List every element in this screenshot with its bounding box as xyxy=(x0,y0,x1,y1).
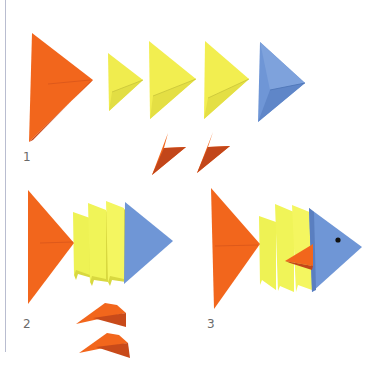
yellow-layer-2 xyxy=(88,203,108,286)
orange-tail xyxy=(28,190,74,304)
yellow-triangle-small xyxy=(108,53,143,111)
small-orange-fin-1 xyxy=(152,133,186,175)
yellow-triangle-3 xyxy=(204,41,249,119)
orange-fin-b xyxy=(79,333,130,358)
step-1-label: 1 xyxy=(23,150,31,164)
origami-illustration xyxy=(0,0,386,374)
step-2-assembly xyxy=(28,190,173,358)
small-orange-fin-2 xyxy=(197,132,230,173)
step-3-label: 3 xyxy=(207,317,215,331)
step-3-finished-fish xyxy=(211,188,362,309)
orange-fin-a xyxy=(76,303,126,327)
yellow-triangle-2 xyxy=(149,41,196,119)
step-1-pieces xyxy=(29,33,305,175)
blue-triangle xyxy=(258,42,305,122)
blue-head xyxy=(124,202,173,284)
large-orange-triangle xyxy=(29,33,93,142)
yellow-layer-3 xyxy=(106,201,126,286)
blue-head xyxy=(309,208,362,292)
yellow-layer-1 xyxy=(259,216,276,290)
fish-eye xyxy=(335,237,340,242)
yellow-layer-2 xyxy=(275,204,294,292)
orange-tail xyxy=(211,188,260,309)
step-2-label: 2 xyxy=(23,317,31,331)
